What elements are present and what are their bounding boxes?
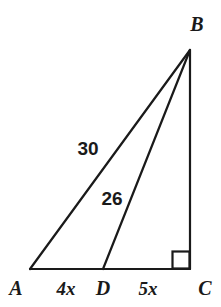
vertex-label-d: D bbox=[96, 278, 110, 298]
right-angle-marker-c bbox=[173, 252, 190, 269]
segment-length-dc: 5x bbox=[139, 279, 158, 298]
vertex-label-a: A bbox=[9, 278, 22, 298]
segment-length-db: 26 bbox=[101, 189, 122, 208]
geometry-figure: A B C D 30 26 4x 5x bbox=[0, 0, 221, 307]
segment-length-ad: 4x bbox=[57, 279, 76, 298]
geometry-canvas bbox=[0, 0, 221, 307]
segment-length-ab: 30 bbox=[77, 139, 98, 158]
vertex-label-c: C bbox=[198, 278, 211, 298]
segment-db-cevian bbox=[103, 50, 190, 269]
segment-ab-hypotenuse bbox=[30, 50, 190, 269]
vertex-label-b: B bbox=[190, 14, 203, 34]
